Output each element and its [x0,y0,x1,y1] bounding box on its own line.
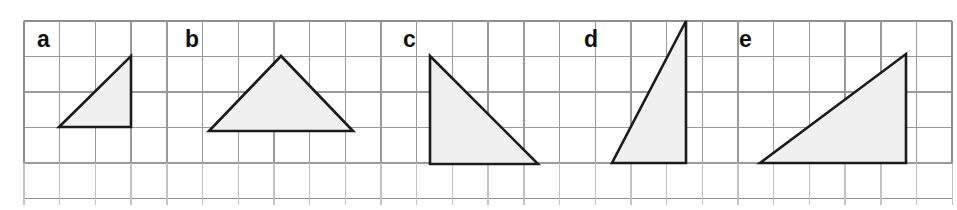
figure-canvas: abcde [0,0,957,210]
triangle-b [209,56,353,131]
shape-label-a: a [37,26,50,52]
triangle-e [760,54,906,163]
shape-label-d: d [584,26,598,52]
shape-label-e: e [739,26,752,52]
triangles-grid-figure: abcde [0,0,957,210]
triangle-c [430,56,538,164]
labels-layer: abcde [37,26,752,52]
shape-label-c: c [403,26,416,52]
shape-label-b: b [185,26,199,52]
